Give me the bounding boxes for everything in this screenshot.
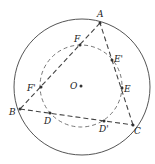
label-e2: E' <box>113 54 123 64</box>
point-a <box>99 22 102 25</box>
point-d <box>49 112 52 115</box>
label-c: C <box>134 126 141 136</box>
label-o: O <box>70 81 78 91</box>
point-f2 <box>40 86 43 89</box>
label-d: D <box>43 116 51 126</box>
geometry-diagram: ABCFE'EF'DD'O <box>0 0 155 164</box>
point-d2 <box>103 120 106 123</box>
segment-ca <box>100 23 133 125</box>
segment-bc <box>20 109 133 125</box>
label-f: F <box>73 34 81 44</box>
point-b <box>19 108 22 111</box>
label-d2: D' <box>98 124 109 134</box>
point-o <box>80 85 83 88</box>
label-f2: F' <box>26 83 36 93</box>
label-e: E <box>123 84 131 94</box>
segment-ab <box>20 23 100 109</box>
label-a: A <box>96 9 104 19</box>
label-b: B <box>8 107 16 117</box>
point-labels: ABCFE'EF'DD'O <box>8 9 141 136</box>
